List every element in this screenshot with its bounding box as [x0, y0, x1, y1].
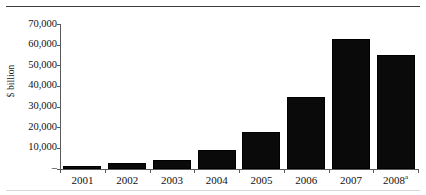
x-axis-tick-label: 2007 — [329, 174, 374, 187]
bar — [108, 163, 146, 169]
x-axis-tick-mark — [239, 169, 240, 173]
bottom-horizontal-rule — [6, 190, 420, 191]
bar — [242, 132, 280, 169]
y-axis-tick-label: 60,000 — [5, 39, 57, 50]
x-axis-tick-label: 2002 — [105, 174, 150, 187]
bar — [153, 160, 191, 169]
bar — [198, 150, 236, 169]
bar — [287, 97, 325, 169]
x-axis-tick-mark — [418, 169, 419, 173]
y-axis-tick-label: 50,000 — [5, 60, 57, 71]
bar — [377, 55, 415, 169]
x-axis-tick-label: 2001 — [60, 174, 105, 187]
x-axis-tick-mark — [284, 169, 285, 173]
x-axis-tick-label: 2005 — [239, 174, 284, 187]
bar — [332, 39, 370, 169]
x-axis-tick-mark — [105, 169, 106, 173]
x-axis-tick-label: 2003 — [150, 174, 195, 187]
x-axis-tick-label: 2008a — [373, 174, 418, 187]
y-axis-tick-label: 10,000 — [5, 142, 57, 153]
plot-area — [60, 24, 418, 169]
bar — [63, 166, 101, 169]
top-horizontal-rule — [6, 6, 420, 7]
y-axis-tick-label: 70,000 — [5, 19, 57, 30]
y-axis-tick-label: – — [5, 163, 57, 174]
x-axis-tick-label: 2006 — [284, 174, 329, 187]
y-axis-tick-label: 20,000 — [5, 122, 57, 133]
x-axis-tick-mark — [60, 169, 61, 173]
x-axis-tick-mark — [194, 169, 195, 173]
bar-chart-figure: $ billion 70,00060,00050,00040,00030,000… — [0, 0, 426, 195]
x-axis-tick-mark — [150, 169, 151, 173]
x-axis-tick-label: 2004 — [194, 174, 239, 187]
x-axis-tick-mark — [373, 169, 374, 173]
footnote-marker: a — [405, 173, 408, 181]
y-axis-tick-label: 40,000 — [5, 80, 57, 91]
y-axis-tick-label: 30,000 — [5, 101, 57, 112]
y-axis-tick-group: 70,00060,00050,00040,00030,00020,00010,0… — [0, 0, 57, 195]
x-axis-tick-mark — [329, 169, 330, 173]
